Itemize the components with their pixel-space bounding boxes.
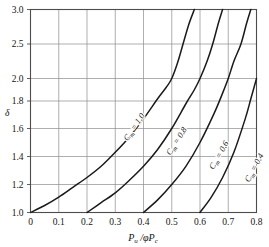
- x-tick-label: 0: [28, 217, 33, 227]
- y-tick-label: 1.8: [12, 96, 24, 106]
- x-axis-tick-labels: 00.10.20.30.40.50.60.70.8: [28, 217, 263, 227]
- y-tick-label: 1.2: [12, 180, 24, 190]
- x-tick-label: 0.4: [138, 217, 150, 227]
- y-tick-label: 2.0: [12, 74, 24, 84]
- x-tick-label: 0.7: [222, 217, 234, 227]
- chart-svg: 00.10.20.30.40.50.60.70.8 1.01.21.41.61.…: [0, 0, 269, 247]
- x-tick-label: 0.5: [166, 217, 178, 227]
- x-tick-label: 0.3: [109, 217, 121, 227]
- y-tick-label: 1.4: [12, 152, 24, 162]
- chart-container: 00.10.20.30.40.50.60.70.8 1.01.21.41.61.…: [0, 0, 269, 247]
- x-tick-label: 0.6: [194, 217, 206, 227]
- y-axis-title: δ: [5, 108, 10, 118]
- y-tick-label: 1.0: [12, 208, 24, 218]
- y-tick-label: 2.5: [12, 39, 24, 49]
- x-tick-label: 0.8: [251, 217, 263, 227]
- y-tick-label: 3.0: [12, 5, 24, 15]
- y-tick-label: 1.6: [12, 124, 24, 134]
- x-tick-label: 0.1: [53, 217, 65, 227]
- x-tick-label: 0.2: [81, 217, 93, 227]
